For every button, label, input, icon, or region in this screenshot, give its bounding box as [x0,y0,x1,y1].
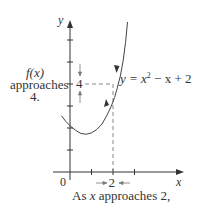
x-axis-label: x [176,175,181,189]
curve-arrow-down-icon [114,65,120,73]
origin-label: 0 [60,175,66,189]
y-axis-arrow-icon [67,20,73,28]
curve-parabola [61,22,127,134]
y-value-label: 4 [76,77,83,91]
equation-label: y = x2 − x + 2 [120,69,191,86]
annotation-four: 4. [30,90,40,104]
graph [0,0,198,215]
curve-arrow-up-icon [104,99,109,107]
bottom-caption: As x approaches 2, [72,189,170,203]
y-axis-label: y [58,13,63,27]
